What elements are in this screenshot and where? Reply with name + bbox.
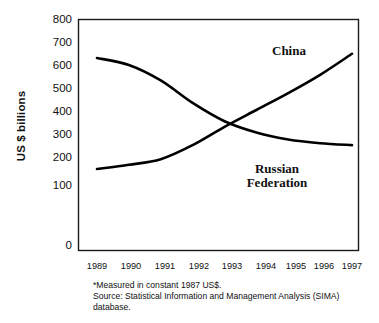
chart-footnote: *Measured in constant 1987 US$. Source: … <box>93 280 373 314</box>
series-line-china <box>97 54 352 169</box>
series-annotation-china: China <box>272 44 306 58</box>
chart-figure: US $ billions 800 700 600 500 400 300 20… <box>0 0 379 323</box>
footnote-measure-note: *Measured in constant 1987 US$. <box>93 280 373 291</box>
footnote-source-line1: Source: Statistical Information and Mana… <box>93 291 373 302</box>
plot-area <box>0 0 379 323</box>
plot-frame <box>79 20 359 251</box>
footnote-source-line2: database. <box>93 302 373 313</box>
series-annotation-russian-federation-line1: Russian <box>240 162 314 176</box>
series-annotation-russian-federation: Russian Federation <box>240 162 314 190</box>
series-line-russian-federation <box>97 58 352 145</box>
series-annotation-russian-federation-line2: Federation <box>240 176 314 190</box>
